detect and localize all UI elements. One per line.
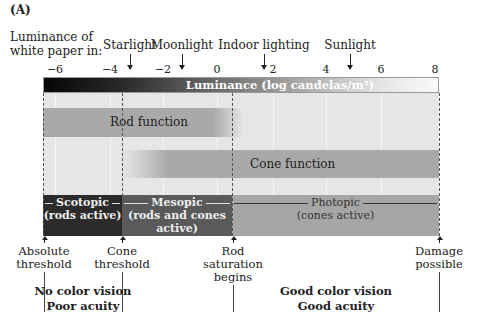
bracket-line [439, 272, 440, 312]
gridline [381, 93, 382, 195]
tick-label: −4 [102, 63, 118, 76]
tick-label: −6 [47, 63, 63, 76]
absolute-threshold-line [43, 93, 44, 236]
source-sunlight: Sunlight [324, 38, 376, 52]
label-line-1: Luminance of [10, 30, 102, 44]
label-line: begins [203, 271, 263, 284]
cone-threshold-line [122, 93, 123, 236]
cone-threshold-label: Cone threshold [94, 245, 150, 271]
arrow-down-icon [264, 54, 265, 69]
photopic-subtitle: (cones active) [232, 209, 439, 222]
summary-line: Good color vision [280, 284, 392, 299]
arrow-up-icon [44, 237, 45, 243]
tick-label: 6 [378, 63, 385, 76]
source-indoor-lighting: Indoor lighting [218, 38, 309, 52]
summary-line: Poor acuity [35, 299, 132, 314]
label-line: threshold [94, 258, 150, 271]
panel-label: (A) [10, 3, 31, 17]
luminance-of-white-paper-label: Luminance of white paper in: [10, 30, 102, 58]
arrow-down-icon [350, 54, 351, 69]
damage-line [439, 93, 440, 236]
photopic-text: Photopic (cones active) [232, 196, 439, 222]
rod-saturation-label: Rod saturation begins [203, 245, 263, 284]
mesopic-title: Mesopic [148, 196, 205, 209]
scotopic-summary: No color vision Poor acuity [35, 284, 132, 314]
rod-saturation-line [232, 93, 233, 236]
mesopic-subtitle-2: active) [122, 222, 232, 235]
source-starlight: Starlight [103, 38, 157, 52]
tick-label: 0 [214, 63, 221, 76]
tick-label: 8 [432, 63, 439, 76]
arrow-up-icon [122, 237, 123, 243]
mesopic-text: Mesopic (rods and cones active) [122, 196, 232, 235]
label-line-2: white paper in: [10, 44, 102, 58]
source-moonlight: Moonlight [151, 38, 213, 52]
tick-label: −2 [155, 63, 171, 76]
photopic-summary: Good color vision Good acuity [280, 284, 392, 314]
tick-label: 4 [323, 63, 330, 76]
summary-line: Good acuity [280, 299, 392, 314]
label-line: possible [415, 258, 463, 271]
mesopic-subtitle: (rods and cones [122, 209, 232, 222]
bracket-line [233, 285, 234, 312]
arrow-down-icon [130, 54, 131, 69]
axis-title: Luminance (log candelas/m²) [180, 77, 380, 93]
tick-label: 2 [270, 63, 277, 76]
gridline [273, 93, 274, 195]
damage-possible-label: Damage possible [415, 245, 463, 271]
scotopic-title: Scotopic [53, 196, 112, 209]
label-line: threshold [16, 258, 72, 271]
scotopic-subtitle: (rods active) [43, 209, 122, 222]
arrow-down-icon [182, 54, 183, 69]
scotopic-text: Scotopic (rods active) [43, 196, 122, 222]
summary-line: No color vision [35, 284, 132, 299]
gridline [326, 93, 327, 195]
arrow-up-icon [233, 237, 234, 243]
absolute-threshold-label: Absolute threshold [16, 245, 72, 271]
arrow-up-icon [439, 237, 440, 243]
cone-function-label: Cone function [250, 157, 335, 171]
photopic-title: Photopic [308, 196, 363, 209]
